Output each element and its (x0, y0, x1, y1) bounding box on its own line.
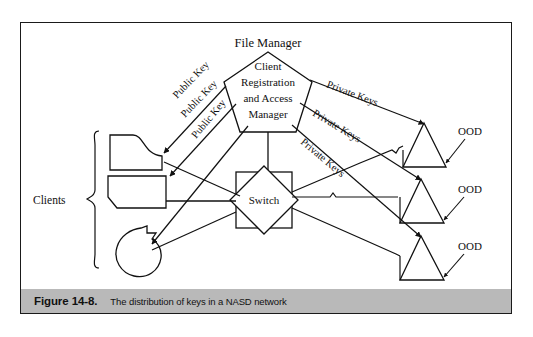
figure-caption-text: The distribution of keys in a NASD netwo… (110, 296, 286, 307)
figure-page: File Manager Client Registration and Acc… (0, 0, 533, 337)
figure-caption-bar: Figure 14-8. The distribution of keys in… (21, 289, 511, 313)
figure-caption-number: Figure 14-8. (34, 295, 97, 307)
figure-frame (20, 22, 512, 314)
